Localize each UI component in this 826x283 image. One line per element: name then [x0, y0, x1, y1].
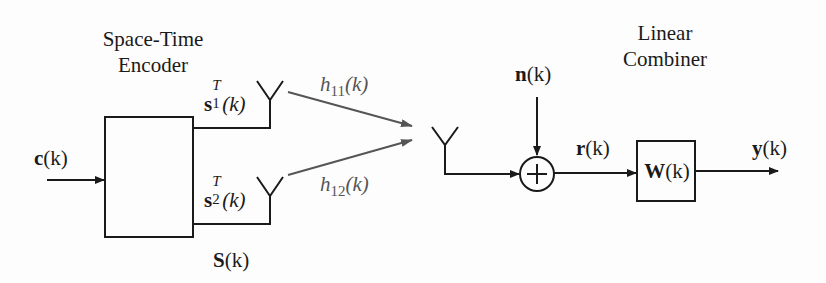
encoder-title-line1: Space-Time [78, 26, 228, 52]
stream2-sup: T [212, 173, 220, 190]
received-arg: (k) [585, 136, 610, 160]
matrix-arg: (k) [225, 248, 250, 272]
h12-symbol: h [320, 172, 331, 196]
noise-symbol: n [515, 62, 527, 86]
input-label: c(k) [34, 146, 68, 171]
channel-h11-label: h11(k) [320, 72, 368, 100]
h11-symbol: h [320, 72, 331, 96]
combiner-arg: (k) [665, 159, 690, 183]
rx-antenna-icon [432, 127, 458, 145]
encoder-box [105, 117, 193, 237]
stream1-label: sT1(k) [204, 92, 246, 117]
noise-arg: (k) [527, 62, 552, 86]
summing-junction-icon [520, 157, 554, 191]
mimo-system-diagram: Space-Time Encoder c(k) sT1(k) sT2(k) S(… [0, 0, 826, 283]
matrix-symbol: S [213, 248, 225, 272]
combiner-box-label: W(k) [639, 159, 695, 184]
encoder-title-line2: Encoder [78, 52, 228, 78]
received-label: r(k) [576, 136, 610, 161]
h11-sub: 11 [331, 83, 345, 99]
stream2-arg: (k) [222, 188, 245, 212]
input-arg: (k) [43, 146, 68, 170]
stream1-sub: 1 [212, 95, 220, 112]
stream2-sub: 2 [212, 191, 220, 208]
h12-sub: 12 [331, 183, 346, 199]
output-arg: (k) [763, 136, 788, 160]
combiner-symbol: W [644, 159, 665, 183]
combiner-title: Linear Combiner [600, 20, 730, 72]
rx-line [445, 145, 519, 174]
output-label: y(k) [752, 136, 787, 161]
input-symbol: c [34, 146, 43, 170]
stream1-symbol: s [204, 92, 212, 116]
tx-antenna-1-icon [257, 81, 283, 100]
noise-label: n(k) [515, 62, 551, 87]
stream2-label: sT2(k) [204, 188, 246, 213]
received-symbol: r [576, 136, 585, 160]
channel-h12-arrow [288, 140, 412, 175]
combiner-title-line2: Combiner [600, 46, 730, 72]
stream2-symbol: s [204, 188, 212, 212]
stream1-arg: (k) [222, 92, 245, 116]
h11-arg: (k) [345, 72, 368, 96]
stream1-sup: T [212, 77, 220, 94]
matrix-label: S(k) [213, 248, 249, 273]
encoder-title: Space-Time Encoder [78, 26, 228, 78]
combiner-title-line1: Linear [600, 20, 730, 46]
channel-h12-label: h12(k) [320, 172, 369, 200]
tx-antenna-2-icon [257, 177, 283, 196]
h12-arg: (k) [346, 172, 369, 196]
output-symbol: y [752, 136, 763, 160]
